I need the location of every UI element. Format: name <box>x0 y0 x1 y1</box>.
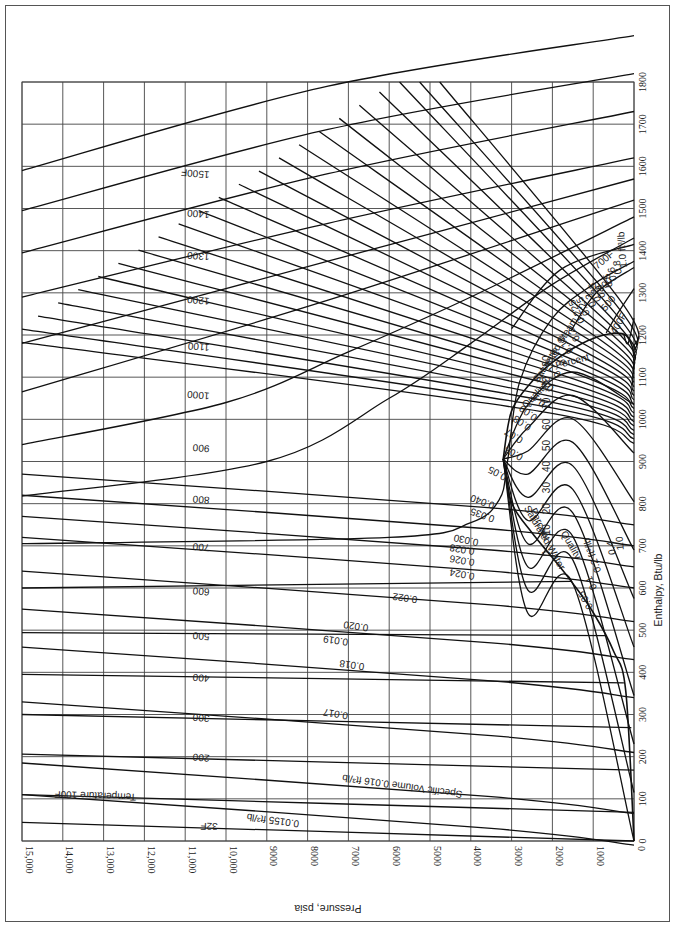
enthalpy-axis-title: Enthalpy, Btu/lb <box>652 553 664 626</box>
enthalpy-tick-label: 1300 <box>637 283 648 303</box>
enthalpy-tick-label: 600 <box>637 581 648 596</box>
pressure-tick-label: 12,000 <box>146 846 157 874</box>
pressure-tick-label: 5000 <box>432 846 443 866</box>
quality-percent-label: 50 <box>541 439 552 451</box>
pressure-tick-label: 4000 <box>472 846 483 866</box>
temperature-label: 900 <box>192 442 210 454</box>
quality-percent-label: 40 <box>541 460 552 472</box>
enthalpy-tick-label: 1500 <box>637 199 648 219</box>
pressure-tick-label: 6000 <box>391 846 402 866</box>
temperature-label: 32F <box>200 821 218 833</box>
pressure-tick-label: 2000 <box>554 846 565 866</box>
temperature-line <box>22 112 634 253</box>
pressure-tick-label: 14,000 <box>64 846 75 874</box>
temperature-label: Temperature 100F <box>54 789 136 803</box>
quality-percent-label: 20 <box>541 503 552 515</box>
temperature-label: 1500F <box>181 167 210 180</box>
temperature-label: 400 <box>192 672 210 684</box>
enthalpy-tick-label: 100 <box>637 791 648 806</box>
pressure-tick-label: 8000 <box>309 846 320 866</box>
enthalpy-tick-label: 1800 <box>637 72 648 92</box>
pressure-tick-label: 0 <box>636 846 647 851</box>
temperature-label: 700 <box>192 541 210 553</box>
enthalpy-tick-label: 200 <box>637 749 648 764</box>
enthalpy-tick-label: 1100 <box>637 367 648 387</box>
pressure-tick-label: 3000 <box>513 846 524 866</box>
temperature-line <box>22 581 571 588</box>
wet-volume-label: 0.1 <box>583 574 599 592</box>
temperature-label: 1000 <box>186 389 210 402</box>
temperature-line <box>22 633 606 636</box>
specific-volume-line <box>279 158 634 383</box>
temperature-line <box>22 74 634 211</box>
quality-line <box>503 459 634 744</box>
specific-volume-label: 0.019 <box>322 633 349 647</box>
temperature-label: 200 <box>192 751 210 763</box>
specific-volume-label: Specific Volume 0.016 ft³/lb <box>341 772 463 800</box>
pressure-tick-label: 11,000 <box>187 846 198 873</box>
temperature-label: 800 <box>192 493 210 505</box>
pressure-tick-label: 1000 <box>595 846 606 866</box>
quality-percent-label: 70 <box>541 397 552 409</box>
specific-volume-label: 0.020 <box>342 619 369 633</box>
enthalpy-tick-label: 800 <box>637 496 648 511</box>
temperature-label: 600 <box>192 585 210 597</box>
pressure-enthalpy-chart: 15,00014,00013,00012,00011,00010,0009000… <box>0 0 676 928</box>
pressure-tick-label: 15,000 <box>24 846 35 874</box>
pressure-tick-label: 7000 <box>350 846 361 866</box>
enthalpy-tick-label: 1400 <box>637 241 648 261</box>
temperature-line <box>22 822 634 841</box>
enthalpy-tick-label: 1700 <box>637 114 648 134</box>
temperature-label: 1400 <box>186 207 210 220</box>
axis-ticks: 15,00014,00013,00012,00011,00010,0009000… <box>24 72 649 874</box>
enthalpy-tick-label: 1200 <box>637 325 648 345</box>
temperature-label: 1200 <box>186 294 210 307</box>
superheat-400f-label: 400F <box>608 311 629 336</box>
pressure-tick-label: 10,000 <box>228 846 239 874</box>
temperature-label: 1100 <box>187 340 210 353</box>
enthalpy-tick-label: 400 <box>637 665 648 680</box>
temperature-label: 300 <box>192 712 210 724</box>
temperature-line <box>22 674 624 682</box>
enthalpy-tick-label: 0 <box>637 839 648 844</box>
specific-volume-label: 0.022 <box>391 591 418 605</box>
pressure-tick-label: 9000 <box>268 846 279 866</box>
quality-percent-label: 30 <box>541 482 552 494</box>
temperature-label: 500 <box>192 630 210 642</box>
specific-volume-label: 0.017 <box>322 706 349 721</box>
pressure-tick-label: 13,000 <box>105 846 116 874</box>
enthalpy-tick-label: 500 <box>637 623 648 638</box>
quality-percent-label: 60 <box>541 418 552 430</box>
enthalpy-tick-label: 1600 <box>637 156 648 176</box>
specific-volume-label: 1.0 ft³/lb <box>615 231 629 268</box>
temperature-label: 1300 <box>186 250 210 263</box>
enthalpy-tick-label: 1000 <box>637 409 648 429</box>
enthalpy-tick-label: 300 <box>637 707 648 722</box>
wet-volume-label: 1.0 <box>614 536 626 551</box>
specific-volume-line <box>22 763 634 814</box>
enthalpy-tick-label: 700 <box>637 538 648 553</box>
temperature-line <box>22 36 634 171</box>
pressure-axis-title: Pressure, psia <box>294 903 361 915</box>
enthalpy-tick-label: 900 <box>637 454 648 469</box>
specific-volume-label: 0.018 <box>338 658 365 672</box>
